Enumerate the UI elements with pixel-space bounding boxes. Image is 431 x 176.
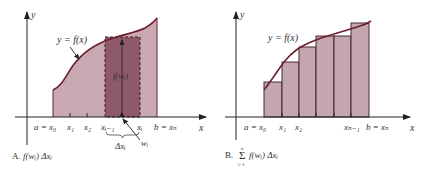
caption-letter-b: B.	[225, 150, 233, 160]
y-axis-label: y	[30, 9, 36, 20]
curve-label-b: y = f(x)	[267, 32, 299, 44]
panel-b: y x y = f(x) a = x₀ x₁ x₂ xₙ₋₁ b = xₙ B.…	[225, 9, 415, 167]
caption-sum-bottom: i=1	[238, 162, 245, 167]
caption-expr-a: f(wᵢ) Δxᵢ	[23, 151, 52, 161]
tick-label-a-b: a = x₀	[244, 122, 266, 132]
riemann-sum-figure: y x y = f(x) f(wᵢ) a = x₀ x₁ x₂ xᵢ₋₁ xᵢ …	[0, 0, 431, 176]
tick-label-xi: xᵢ	[136, 122, 143, 132]
rect-3	[299, 47, 316, 117]
tick-label-x1-b: x₁	[278, 122, 286, 132]
panel-a: y x y = f(x) f(wᵢ) a = x₀ x₁ x₂ xᵢ₋₁ xᵢ …	[12, 9, 206, 161]
rect-4	[316, 36, 334, 117]
rect-6	[351, 23, 369, 117]
tick-label-b: b = xₙ	[154, 122, 177, 132]
curve-label: y = f(x)	[56, 34, 88, 46]
x-axis-label: x	[198, 122, 204, 133]
curve-pointer	[70, 47, 79, 59]
height-label: f(wᵢ)	[113, 71, 128, 81]
caption-letter-a: A.	[12, 151, 21, 161]
tick-label-xn-1-b: xₙ₋₁	[343, 122, 360, 132]
y-axis-label-b: y	[239, 9, 245, 20]
tick-label-xi-1: xᵢ₋₁	[100, 122, 114, 132]
tick-label-b-b: b = xₙ	[366, 122, 389, 132]
caption-expr-b: f(wᵢ) Δxᵢ	[249, 150, 278, 160]
tick-label-x2: x₂	[83, 122, 91, 132]
x-axis-label-b: x	[409, 122, 415, 133]
rect-2	[282, 62, 299, 117]
rect-5	[334, 36, 351, 117]
tick-label-a: a = x₀	[34, 122, 56, 132]
width-label: Δxᵢ	[114, 141, 126, 151]
tick-label-x1: x₁	[66, 122, 74, 132]
tick-label-x2-b: x₂	[294, 122, 302, 132]
point-label: wᵢ	[141, 138, 148, 148]
